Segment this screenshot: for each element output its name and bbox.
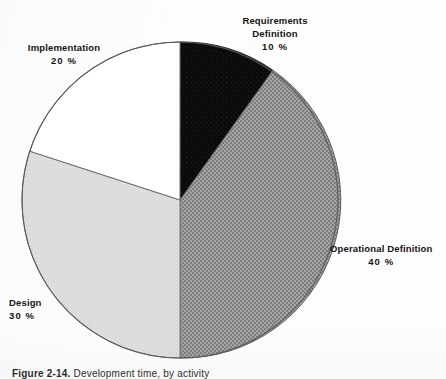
slice-label-requirements-definition: Requirements Definition 10 % [214, 14, 336, 53]
slice-label-implementation: Implementation 20 % [10, 41, 118, 67]
slice-label-line1: Operational Definition [330, 243, 433, 254]
slice-label-line1: Design [9, 297, 42, 308]
slice-label-line1: Implementation [28, 42, 100, 53]
slice-label-line2: Definition [252, 28, 297, 39]
slice-value-implementation: 20 % [10, 54, 118, 67]
slice-label-line1: Requirements [242, 15, 307, 26]
figure-caption-text: Development time, by activity [74, 368, 210, 379]
slice-value-operational-definition: 40 % [330, 255, 433, 268]
slice-label-design: Design 30 % [9, 296, 42, 322]
slice-label-operational-definition: Operational Definition 40 % [330, 242, 433, 268]
slice-value-requirements-definition: 10 % [214, 40, 336, 53]
figure-caption: Figure 2-14. Development time, by activi… [12, 368, 209, 379]
figure-caption-number: Figure 2-14. [12, 368, 71, 379]
slice-value-design: 30 % [9, 309, 42, 322]
